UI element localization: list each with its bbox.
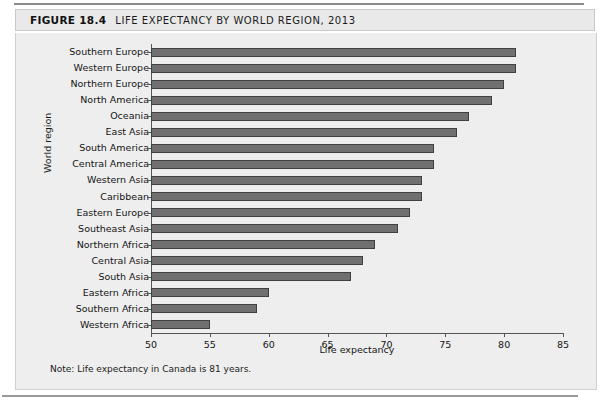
chart-plot-wrapper: World region Southern EuropeWestern Euro… (16, 33, 597, 390)
bar (151, 48, 516, 57)
figure-title: LIFE EXPECTANCY BY WORLD REGION, 2013 (115, 15, 355, 26)
bar (151, 288, 269, 297)
y-axis-tick-labels: Southern EuropeWestern EuropeNorthern Eu… (52, 44, 149, 332)
figure-header: FIGURE 18.4 LIFE EXPECTANCY BY WORLD REG… (15, 9, 595, 31)
y-axis-tick-label: South America (52, 143, 149, 153)
top-divider-rule (14, 3, 584, 5)
bar (151, 64, 516, 73)
bar (151, 80, 504, 89)
y-axis-tick-label: Eastern Europe (52, 208, 149, 218)
bar (151, 304, 257, 313)
y-axis-tick-label: Western Europe (52, 63, 149, 73)
y-axis-tick-label: Central Asia (52, 256, 149, 266)
bar (151, 112, 469, 121)
bar (151, 96, 492, 105)
bar (151, 176, 422, 185)
y-axis-tick-label: Northern Europe (52, 79, 149, 89)
x-axis-tick-mark (269, 333, 270, 337)
y-axis-tick-label: Western Asia (52, 175, 149, 185)
x-axis-tick-mark (563, 333, 564, 337)
bar (151, 256, 363, 265)
x-axis-line (151, 333, 563, 334)
bar (151, 128, 457, 137)
figure-page: FIGURE 18.4 LIFE EXPECTANCY BY WORLD REG… (0, 0, 613, 413)
y-axis-tick-label: Southeast Asia (52, 224, 149, 234)
bar (151, 208, 410, 217)
y-axis-tick-label: Eastern Africa (52, 288, 149, 298)
y-axis-tick-label: Western Africa (52, 320, 149, 330)
y-axis-tick-label: South Asia (52, 272, 149, 282)
x-axis-tick-mark (445, 333, 446, 337)
x-axis-tick-mark (328, 333, 329, 337)
y-axis-tick-label: Northern Africa (52, 240, 149, 250)
figure-number: FIGURE 18.4 (30, 14, 106, 26)
x-axis-tick-mark (386, 333, 387, 337)
bar (151, 320, 210, 329)
chart-panel: World region Southern EuropeWestern Euro… (15, 33, 597, 390)
bar (151, 160, 434, 169)
x-axis-tick-mark (504, 333, 505, 337)
x-axis-tick-mark (210, 333, 211, 337)
chart-note: Note: Life expectancy in Canada is 81 ye… (50, 364, 251, 374)
y-axis-tick-label: Central America (52, 159, 149, 169)
bar (151, 240, 375, 249)
bar (151, 192, 422, 201)
bar (151, 272, 351, 281)
y-axis-tick-label: Caribbean (52, 192, 149, 202)
bar (151, 144, 434, 153)
x-axis-title: Life expectancy (151, 344, 563, 355)
plot-area: 5055606570758085 (151, 44, 563, 333)
y-axis-tick-label: Southern Europe (52, 47, 149, 57)
x-axis-tick-mark (151, 333, 152, 337)
y-axis-tick-label: North America (52, 95, 149, 105)
bar (151, 224, 398, 233)
y-axis-tick-label: East Asia (52, 127, 149, 137)
y-axis-tick-label: Southern Africa (52, 304, 149, 314)
y-axis-tick-label: Oceania (52, 111, 149, 121)
bottom-divider-rule (2, 395, 578, 397)
